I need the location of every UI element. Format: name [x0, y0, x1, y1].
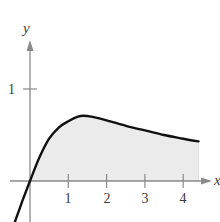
chart: y 1 x 1 2 3 4: [0, 0, 220, 222]
shaded-area: [30, 116, 199, 181]
x-tick-label-3: 3: [142, 191, 149, 206]
x-axis-label: x: [213, 172, 220, 188]
x-tick-label-4: 4: [180, 191, 187, 206]
x-tick-label-2: 2: [104, 191, 111, 206]
y-tick-label-1: 1: [8, 82, 15, 97]
y-axis-label: y: [21, 20, 30, 36]
x-axis-arrow-icon: [201, 178, 212, 185]
x-tick-label-1: 1: [65, 191, 72, 206]
y-axis-arrow-icon: [27, 40, 34, 51]
